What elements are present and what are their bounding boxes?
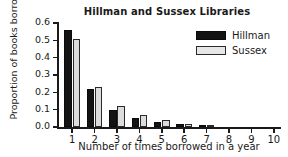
y-tick: 0.2: [53, 92, 59, 94]
y-tick-label: 0.4: [35, 51, 50, 62]
bar-hillman-3: [109, 110, 117, 127]
bar-hillman-4: [132, 118, 140, 127]
y-tick: 0.0: [53, 126, 59, 128]
y-tick-label: 0.3: [35, 68, 50, 79]
x-tick: [71, 127, 73, 133]
y-tick: 0.1: [53, 109, 59, 111]
bar-hillman-7: [199, 125, 207, 127]
y-tick-label: 0.6: [35, 16, 50, 27]
chart-title: Hillman and Sussex Libraries: [57, 6, 277, 17]
bar-hillman-1: [64, 30, 72, 127]
bar-sussex-4: [140, 115, 148, 127]
bar-hillman-5: [154, 122, 162, 127]
x-tick: [116, 127, 118, 133]
legend-label: Sussex: [232, 45, 267, 56]
x-axis-label: Number of times borrowed in a year: [57, 141, 281, 152]
bar-sussex-3: [117, 106, 125, 127]
bar-sussex-5: [162, 120, 170, 127]
chart-legend: HillmanSussex: [196, 29, 284, 59]
y-tick-label: 0.0: [35, 120, 50, 131]
bar-sussex-1: [73, 39, 81, 127]
legend-swatch-hillman: [196, 31, 226, 40]
bar-hillman-2: [87, 89, 95, 127]
chart-figure: Hillman and Sussex Libraries Proportion …: [0, 0, 288, 157]
y-tick: 0.3: [53, 74, 59, 76]
x-tick: [206, 127, 208, 133]
bar-sussex-7: [207, 125, 215, 127]
y-tick-label: 0.1: [35, 103, 50, 114]
legend-swatch-sussex: [196, 46, 226, 55]
bar-sussex-6: [185, 124, 193, 127]
x-axis-line: [57, 127, 281, 129]
y-tick: 0.4: [53, 57, 59, 59]
y-tick-label: 0.5: [35, 34, 50, 45]
x-tick: [139, 127, 141, 133]
x-tick: [273, 127, 275, 133]
legend-item-sussex: Sussex: [196, 44, 284, 57]
bar-hillman-6: [176, 124, 184, 127]
legend-label: Hillman: [232, 30, 270, 41]
y-axis-label: Proportion of books borrowed: [8, 0, 19, 120]
x-tick: [251, 127, 253, 133]
x-tick: [161, 127, 163, 133]
y-tick: 0.6: [53, 22, 59, 24]
legend-item-hillman: Hillman: [196, 29, 284, 42]
y-tick: 0.5: [53, 40, 59, 42]
x-tick: [183, 127, 185, 133]
bar-sussex-2: [95, 87, 103, 127]
x-tick: [94, 127, 96, 133]
x-tick: [228, 127, 230, 133]
y-tick-label: 0.2: [35, 86, 50, 97]
